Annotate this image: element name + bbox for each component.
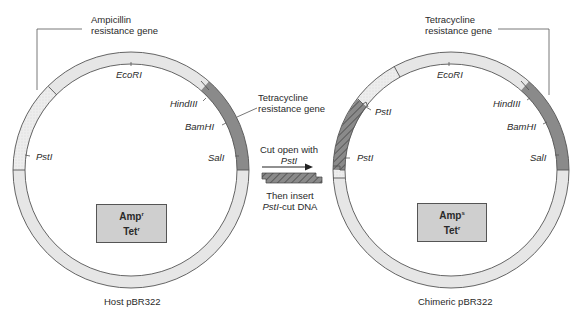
chimeric-site-psti-upper: PstI [375,106,391,117]
tet-superscript: r [458,224,460,230]
host-tet-phenotype: Tetr [123,224,140,239]
chimeric-site-bamhi: BamHI [507,121,536,132]
tet-callout-line2: resistance gene [258,103,325,114]
amp-gene-callout: Ampicillin resistance gene [91,14,158,36]
host-site-sali: SalI [208,152,224,163]
chimeric-amp-phenotype: Amps [439,208,465,223]
chimeric-plasmid-title: Chimeric pBR322 [418,296,492,307]
host-plasmid-title: Host pBR322 [104,296,161,307]
host-site-psti: PstI [36,151,52,162]
amp-text: Amp [119,211,141,222]
tet-callout-line1: Tetracycline [425,14,492,25]
step2-label: Then insert PstI-cut DNA [256,190,324,212]
step1-line1: Cut open with [258,144,320,155]
insert-dna-fragment [262,173,322,183]
chimeric-tet-phenotype: Tetr [444,223,461,238]
step1-label: Cut open with PstI [258,144,320,166]
tet-callout-line1: Tetracycline [258,92,325,103]
step2-rest: -cut DNA [279,201,318,212]
host-site-bamhi: BamHI [185,121,214,132]
step2-line1: Then insert [256,190,324,201]
amp-superscript: r [141,210,143,216]
host-site-hindiii: HindIII [170,98,197,109]
chimeric-site-psti-lower: PstI [357,152,373,163]
step2-line2: PstI-cut DNA [256,201,324,212]
host-site-ecori: EcoRI [116,69,142,80]
tet-gene-callout-chimeric: Tetracycline resistance gene [425,14,492,36]
tet-superscript: r [137,225,139,231]
tet-gene-callout-host: Tetracycline resistance gene [258,92,325,114]
chimeric-site-ecori: EcoRI [437,69,463,80]
step1-line2: PstI [258,155,320,166]
host-amp-phenotype: Ampr [119,209,144,224]
chimeric-site-hindiii: HindIII [493,98,520,109]
chimeric-site-sali: SalI [530,152,546,163]
tet-text: Tet [444,225,458,236]
amp-callout-line1: Ampicillin [91,14,158,25]
amp-superscript: s [461,209,464,215]
amp-callout-line2: resistance gene [91,25,158,36]
amp-text: Amp [439,210,461,221]
procedure-graphics [262,164,322,184]
tet-text: Tet [123,226,137,237]
host-phenotype-box: Ampr Tetr [96,204,167,243]
chimeric-phenotype-box: Amps Tetr [417,203,487,242]
tet-callout-line2: resistance gene [425,25,492,36]
step2-enzyme: PstI [263,201,279,212]
